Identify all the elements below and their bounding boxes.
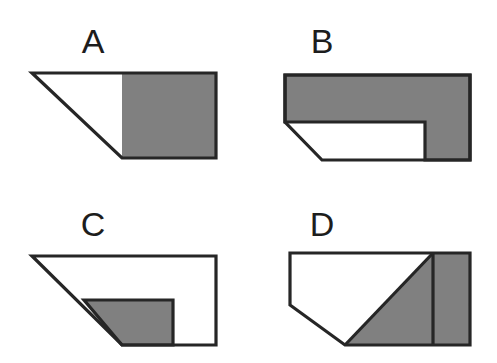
figure-d-shaded-rectangle — [433, 253, 470, 345]
figure-panel: A B C D — [0, 0, 497, 363]
figure-b-label: B — [311, 22, 334, 60]
figure-a-label: A — [82, 22, 105, 60]
figure-a-shaded-region — [122, 73, 216, 158]
figure-d: D — [290, 205, 470, 345]
figure-a: A — [32, 22, 216, 158]
figure-b: B — [285, 22, 470, 160]
shapes-canvas: A B C D — [0, 0, 497, 363]
figure-b-shaded-region — [285, 75, 470, 160]
figure-c: C — [32, 205, 216, 345]
figure-d-label: D — [310, 205, 335, 243]
figure-c-label: C — [81, 205, 106, 243]
